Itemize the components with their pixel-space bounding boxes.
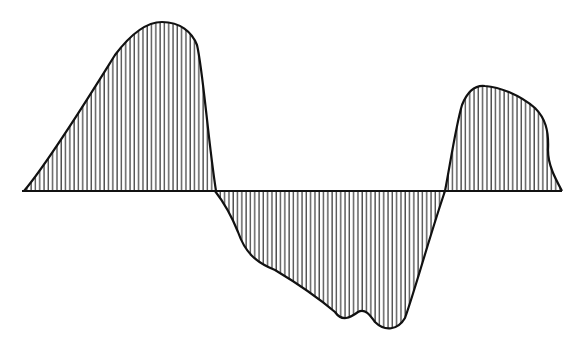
negative-lobe	[212, 188, 448, 338]
waveform-figure	[0, 0, 585, 343]
waveform-svg	[0, 0, 585, 343]
positive-lobe-1	[20, 15, 220, 195]
positive-lobe-2	[442, 80, 567, 195]
